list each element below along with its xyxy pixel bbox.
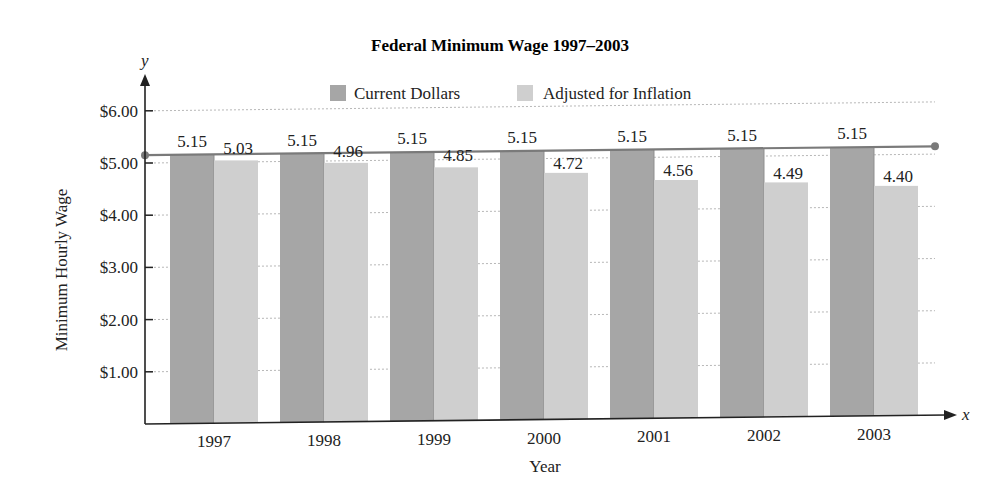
value-label: 4.49: [773, 164, 803, 183]
bar-current-1998: [280, 153, 324, 422]
bar-adjusted-2002: [764, 182, 808, 416]
bar-adjusted-2003: [874, 186, 918, 416]
x-tick-label: 1997: [197, 432, 232, 451]
bar-current-2001: [610, 150, 654, 419]
y-tick-label: $6.00: [100, 102, 138, 121]
legend-swatch-adjusted: [517, 85, 533, 101]
bar-current-2002: [720, 148, 764, 417]
bar-adjusted-2001: [654, 180, 698, 418]
value-label: 5.15: [837, 124, 867, 143]
x-tick-label: 2002: [747, 426, 781, 445]
value-label: 5.15: [177, 132, 207, 151]
value-label: 5.15: [727, 126, 757, 145]
reference-line-end-dot-icon: [931, 142, 939, 150]
y-axis-title: Minimum Hourly Wage: [52, 189, 71, 352]
legend-label-current: Current Dollars: [354, 84, 460, 103]
y-axis-arrow-icon: [140, 74, 150, 86]
value-label: 5.03: [223, 139, 253, 158]
legend: Current Dollars Adjusted for Inflation: [330, 84, 692, 103]
x-tick-label: 2000: [527, 429, 561, 448]
value-label: 5.15: [507, 128, 537, 147]
bar-adjusted-1998: [324, 163, 368, 422]
y-axis-letter: y: [139, 51, 149, 70]
y-tick-label: $4.00: [100, 206, 138, 225]
legend-label-adjusted: Adjusted for Inflation: [543, 84, 692, 103]
value-label: 5.15: [617, 127, 647, 146]
bar-adjusted-1999: [434, 167, 478, 420]
x-axis-arrow-icon: [944, 410, 957, 420]
x-tick-labels: 1997199819992000200120022003: [197, 425, 891, 451]
value-label: 4.85: [443, 146, 473, 165]
y-tick-label: $5.00: [100, 154, 138, 173]
x-tick-label: 2003: [857, 425, 891, 444]
value-label: 4.56: [663, 161, 693, 180]
bar-current-1997: [170, 155, 214, 424]
bar-adjusted-2000: [544, 173, 588, 419]
gridline: [150, 102, 935, 111]
value-label: 4.72: [553, 154, 583, 173]
value-label: 4.96: [333, 142, 363, 161]
bars: [170, 147, 918, 423]
bar-current-2003: [830, 147, 874, 416]
y-tick-label: $3.00: [100, 258, 138, 277]
value-label: 5.15: [287, 131, 317, 150]
chart-title: Federal Minimum Wage 1997–2003: [371, 36, 629, 55]
x-axis-title: Year: [529, 457, 561, 476]
bar-adjusted-1997: [214, 160, 258, 423]
legend-swatch-current: [330, 85, 346, 101]
y-tick-label: $2.00: [100, 311, 138, 330]
bar-chart: Federal Minimum Wage 1997–2003 Current D…: [0, 0, 1003, 497]
x-tick-label: 1999: [417, 430, 451, 449]
value-label: 4.40: [883, 167, 913, 186]
x-axis-letter: x: [961, 405, 970, 424]
bar-current-1999: [390, 152, 434, 421]
x-tick-label: 1998: [307, 431, 341, 450]
value-label: 5.15: [397, 129, 427, 148]
bar-current-2000: [500, 151, 544, 420]
y-tick-label: $1.00: [100, 363, 138, 382]
x-tick-label: 2001: [637, 427, 671, 446]
